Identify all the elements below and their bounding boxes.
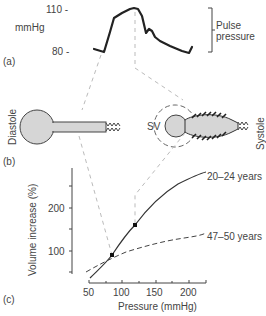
panel-c-label: (c): [3, 294, 15, 305]
y-axis-label: Volume increase (%): [27, 184, 38, 276]
connector-lines-bc: [79, 133, 185, 255]
systole-label: Systole: [255, 117, 266, 150]
unit-label: mmHg: [15, 22, 44, 33]
ytick-100: 100: [48, 246, 65, 257]
xtick-100: 100: [113, 287, 130, 298]
pressure-waveform: [94, 8, 192, 53]
marker-2: [133, 223, 137, 227]
figure: 110 - mmHg 80 - (a) Pulse pressure Diast…: [0, 0, 266, 316]
tick-80: 80 -: [52, 46, 69, 57]
pulse-pressure-bracket: [208, 8, 215, 52]
spring-left: [106, 123, 120, 131]
diastole-bulb: [20, 110, 54, 144]
x-axis-label: Pressure (mmHg): [118, 301, 197, 312]
x-axis: [89, 280, 206, 283]
sv-label: SV: [147, 121, 161, 132]
series-young-curve: [90, 172, 206, 278]
series-young-label: 20–24 years: [207, 171, 262, 182]
marker-1: [110, 253, 114, 257]
series-old-curve: [86, 233, 206, 272]
spring-right: [238, 122, 248, 130]
y-axis: [69, 168, 72, 274]
diastole-tube: [53, 122, 106, 132]
xtick-200: 200: [180, 287, 197, 298]
systole-bulb: [165, 115, 187, 137]
series-old-label: 47–50 years: [207, 231, 262, 242]
xtick-50: 50: [83, 287, 95, 298]
panel-b-label: (b): [3, 156, 15, 167]
ytick-200: 200: [48, 203, 65, 214]
bracket-label-2: pressure: [216, 31, 255, 42]
diastole-label: Diastole: [7, 108, 18, 145]
tick-110: 110 -: [46, 4, 68, 15]
connector-lines: [82, 12, 183, 110]
bracket-label-1: Pulse: [216, 20, 241, 31]
xtick-150: 150: [146, 287, 163, 298]
panel-a-label: (a): [3, 56, 15, 67]
